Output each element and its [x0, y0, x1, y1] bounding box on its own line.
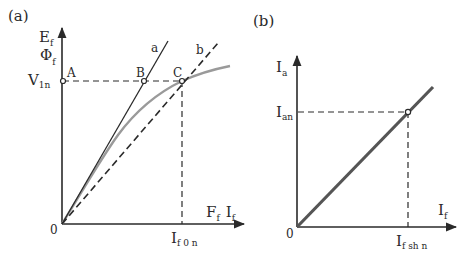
diagram: (a) Ef Φf V1n FfIf If 0 n 0 a b A B C (b… [0, 0, 472, 261]
origin-label: 0 [50, 223, 58, 237]
line-b-label: b [196, 43, 204, 57]
x-axis-label-ff-if: FfIf [206, 203, 236, 223]
x-tick-label-if0n: If 0 n [171, 229, 198, 248]
panel-b: (b) Ia Ian If If sh n 0 [253, 12, 456, 251]
magnetization-curve [62, 66, 230, 224]
point-c-label: C [173, 66, 182, 80]
y-axis-label-ia: Ia [276, 58, 288, 78]
line-a [62, 41, 168, 224]
operating-point [405, 109, 410, 114]
y-axis-label-phi: Φf [40, 46, 56, 67]
x-tick-label-ifshn: If sh n [396, 232, 427, 251]
y-axis-label-ef: Ef [39, 28, 54, 48]
ia-if-line [297, 87, 433, 227]
panel-a: (a) Ef Φf V1n FfIf If 0 n 0 a b A B C [8, 7, 244, 248]
line-a-label: a [151, 41, 158, 55]
y-tick-label-v1n: V1n [27, 71, 51, 90]
point-b-label: B [136, 66, 145, 80]
panel-b-label: (b) [253, 12, 274, 30]
x-axis-label-if: If [438, 201, 448, 221]
origin-label: 0 [286, 227, 294, 241]
y-tick-label-ian: Ian [276, 103, 293, 122]
point-a [61, 79, 66, 84]
point-a-label: A [66, 66, 76, 80]
panel-a-label: (a) [8, 7, 29, 25]
